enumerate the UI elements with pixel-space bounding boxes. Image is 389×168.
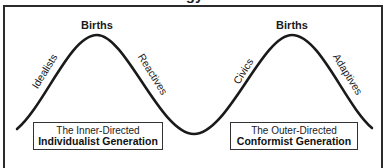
- generation-name: Conformist Generation: [231, 136, 357, 147]
- peak-label-births-2: Births: [276, 19, 308, 31]
- generation-name: Individualist Generation: [34, 136, 162, 147]
- generation-box-outer-directed: The Outer-Directed Conformist Generation: [230, 122, 358, 150]
- generation-box-inner-directed: The Inner-Directed Individualist Generat…: [33, 122, 163, 150]
- peak-label-births-1: Births: [81, 19, 113, 31]
